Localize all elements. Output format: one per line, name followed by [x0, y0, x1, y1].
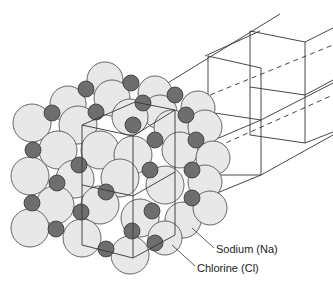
- chlorine-label: Chlorine (Cl): [197, 262, 259, 274]
- sodium-label: Sodium (Na): [216, 243, 278, 255]
- nacl-lattice-diagram: [0, 0, 333, 283]
